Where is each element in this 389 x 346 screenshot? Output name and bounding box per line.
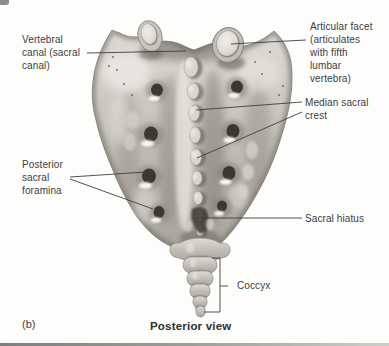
view-caption: Posterior view bbox=[150, 320, 231, 332]
scan-corner-artifact bbox=[0, 0, 9, 5]
label-posterior-sacral-foramina: Posterior sacral foramina bbox=[22, 158, 63, 197]
label-median-sacral-crest: Median sacral crest bbox=[305, 96, 369, 122]
coccyx-shape bbox=[170, 238, 230, 317]
label-vertebral-canal: Vertebral canal (sacral canal) bbox=[22, 33, 80, 72]
anatomy-figure-panel: Vertebral canal (sacral canal) Articular… bbox=[0, 0, 389, 346]
label-coccyx: Coccyx bbox=[237, 279, 270, 292]
label-articular-facet: Articular facet (articulates with fifth … bbox=[310, 20, 373, 85]
panel-letter: (b) bbox=[22, 318, 35, 330]
label-sacral-hiatus: Sacral hiatus bbox=[305, 212, 364, 225]
articular-process-left bbox=[135, 18, 166, 60]
